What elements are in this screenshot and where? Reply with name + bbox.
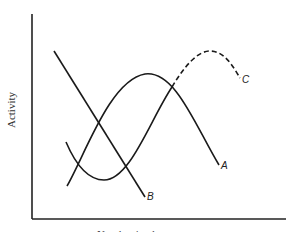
line-chart: A B C Activity Number in class	[0, 0, 293, 232]
y-axis-label: Activity	[5, 80, 17, 140]
curve-c-dashed	[172, 51, 240, 87]
curve-b	[54, 51, 145, 197]
curve-c-label: C	[242, 74, 250, 85]
curve-a	[67, 74, 219, 186]
x-axis-label: Number in class	[97, 228, 168, 232]
curve-b-label: B	[147, 191, 154, 202]
curve-a-label: A	[220, 160, 228, 171]
curve-c-solid	[66, 87, 172, 180]
